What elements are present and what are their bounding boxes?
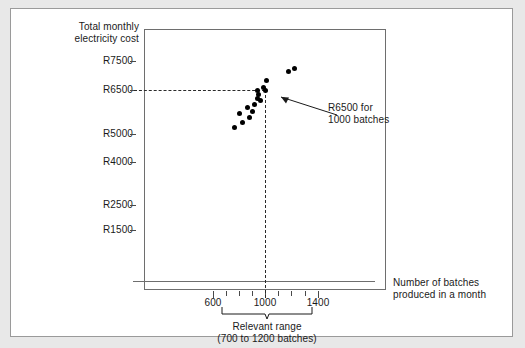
scatter-point: [252, 102, 257, 107]
scatter-point: [286, 69, 291, 74]
y-tick-mark: [130, 230, 136, 231]
relevant-range-line1: Relevant range: [187, 321, 347, 333]
scatter-point: [240, 120, 245, 125]
scatter-point: [292, 66, 297, 71]
x-tick-mark-minor: [252, 291, 253, 296]
relevant-range-brace: [221, 307, 313, 321]
scatter-point: [250, 109, 255, 114]
y-tick-mark: [130, 134, 136, 135]
figure-card: Total monthly electricity cost Number of…: [10, 8, 513, 337]
scatter-point: [245, 105, 250, 110]
y-tick-mark: [130, 61, 136, 62]
vertical-guide-line: [265, 90, 266, 298]
scatter-point: [255, 88, 260, 93]
x-axis-title-line2: produced in a month: [393, 289, 521, 301]
scatter-point: [247, 115, 252, 120]
page-background: Total monthly electricity cost Number of…: [0, 0, 525, 348]
y-tick-label: R5000: [67, 128, 133, 139]
y-tick-label: R1500: [67, 224, 133, 235]
x-axis-baseline: [133, 281, 375, 282]
scatter-point: [237, 111, 242, 116]
y-tick-label: R2500: [67, 199, 133, 210]
horizontal-guide-line: [134, 90, 265, 91]
relevant-range-caption: Relevant range (700 to 1200 batches): [187, 321, 347, 345]
y-axis-title-line1: Total monthly: [51, 21, 139, 33]
y-tick-label: R6500: [67, 84, 133, 95]
x-tick-mark-minor: [291, 291, 292, 296]
y-tick-label: R7500: [67, 55, 133, 66]
annotation-line2: 1000 batches: [328, 114, 448, 126]
x-tick-mark-minor: [226, 291, 227, 296]
x-tick-mark-minor: [278, 291, 279, 296]
scatter-point: [258, 98, 263, 103]
scatter-point: [264, 78, 269, 83]
y-axis-title: Total monthly electricity cost: [51, 21, 139, 44]
y-tick-mark: [130, 205, 136, 206]
y-tick-mark: [130, 162, 136, 163]
x-tick-mark-minor: [239, 291, 240, 296]
x-tick-mark-minor: [305, 291, 306, 296]
scatter-point: [263, 88, 268, 93]
x-axis-title: Number of batches produced in a month: [393, 277, 521, 300]
x-axis-title-line1: Number of batches: [393, 277, 521, 289]
y-tick-label: R4000: [67, 156, 133, 167]
y-axis-title-line2: electricity cost: [51, 33, 139, 45]
annotation-label: R6500 for 1000 batches: [328, 102, 448, 126]
scatter-point: [232, 125, 237, 130]
annotation-line1: R6500 for: [328, 102, 448, 114]
relevant-range-line2: (700 to 1200 batches): [187, 333, 347, 345]
